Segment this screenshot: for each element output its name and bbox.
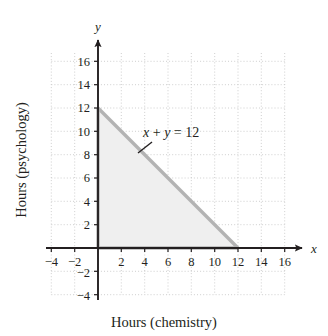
y-tick-label: −4 (77, 289, 91, 303)
y-tick-label: 6 (84, 171, 90, 185)
equation-operator-plus: + (153, 125, 161, 140)
x-axis-symbol: x (310, 241, 317, 256)
y-tick-label: 4 (84, 195, 91, 209)
equation-annotation: x + y = 12 (138, 125, 199, 153)
x-tick-label: 4 (142, 255, 149, 269)
x-tick-label: 10 (208, 255, 221, 269)
equation-label: x + y = 12 (142, 125, 199, 140)
x-tick-label: 8 (188, 255, 194, 269)
equation-equals-value: = 12 (174, 125, 199, 140)
y-axis-symbol: y (93, 19, 101, 34)
coordinate-plane-chart: 16 14 12 10 8 6 4 2 −2 −4 −4 −2 2 4 6 8 … (0, 0, 328, 336)
x-axis-title: Hours (chemistry) (111, 314, 217, 331)
y-tick-label: 2 (84, 218, 90, 232)
x-tick-label: 14 (255, 255, 268, 269)
x-tick-label: 16 (278, 255, 291, 269)
y-tick-label: 8 (84, 148, 90, 162)
y-tick-label: 16 (78, 55, 91, 69)
y-tick-label: 14 (78, 78, 91, 92)
x-tick-label: −4 (45, 255, 59, 269)
x-tick-label: −2 (68, 255, 81, 269)
x-tick-label: 12 (232, 255, 245, 269)
y-axis-title: Hours (psychology) (13, 102, 30, 218)
y-tick-label: 10 (78, 125, 91, 139)
y-tick-label: 12 (78, 101, 91, 115)
x-tick-label: 2 (118, 255, 124, 269)
x-tick-label: 6 (165, 255, 171, 269)
figure-canvas: 16 14 12 10 8 6 4 2 −2 −4 −4 −2 2 4 6 8 … (0, 0, 328, 336)
